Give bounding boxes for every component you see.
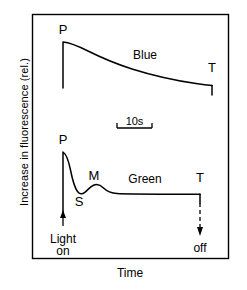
blue-peak-p-label: P [59,22,68,37]
scale-bar-label: 10s [126,115,144,127]
light-on-arrow-icon [60,210,66,226]
light-off-arrow-icon [197,203,203,236]
light-off-arrow-head [197,227,203,236]
light-on-label-line2: on [56,244,69,258]
scale-bar: 10s [117,115,152,128]
fluorescence-induction-figure: Increase in fluorescence (rel.) Time P T… [0,0,247,290]
blue-trace-label: Blue [133,48,157,62]
light-on-arrow-head [60,210,66,218]
light-off-label: off [193,241,207,255]
green-trace-label: Green [128,172,161,186]
green-dip-s-label: S [75,194,84,209]
blue-terminal-t-label: T [208,60,216,75]
green-peak-p-label: P [59,132,68,147]
green-hump-m-label: M [89,168,100,183]
plot-area: P T Blue 10s P S M T Green Light on [0,0,247,290]
green-terminal-t-label: T [196,170,204,185]
